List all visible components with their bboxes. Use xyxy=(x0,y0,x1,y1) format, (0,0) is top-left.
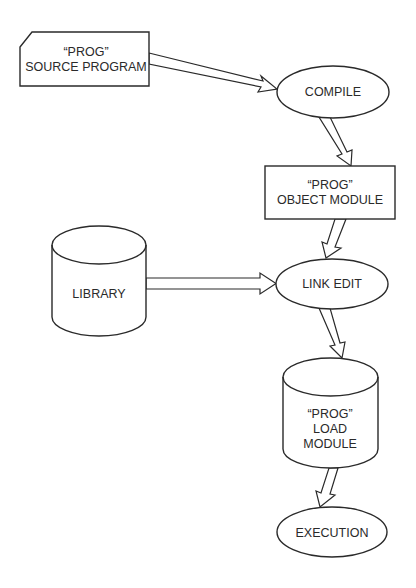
arrow-library-to-link xyxy=(146,273,276,294)
load-module-line1: “PROG” xyxy=(303,407,356,422)
flowchart-canvas: “PROG” SOURCE PROGRAM COMPILE “PROG” OBJ… xyxy=(0,0,416,588)
object-module-label: “PROG” OBJECT MODULE xyxy=(277,178,383,208)
arrow-load-to-execution xyxy=(316,468,338,507)
compile-text: COMPILE xyxy=(305,85,361,100)
link-edit-text: LINK EDIT xyxy=(302,277,362,292)
execution-label: EXECUTION xyxy=(296,526,369,541)
compile-label: COMPILE xyxy=(305,85,361,100)
source-program-line2: SOURCE PROGRAM xyxy=(25,60,147,75)
arrow-link-to-load xyxy=(319,308,345,358)
execution-text: EXECUTION xyxy=(296,526,369,541)
arrow-object-to-link xyxy=(322,219,346,258)
object-module-line1: “PROG” xyxy=(277,178,383,193)
source-program-line1: “PROG” xyxy=(25,45,147,60)
library-text: LIBRARY xyxy=(72,287,125,302)
link-edit-label: LINK EDIT xyxy=(302,277,362,292)
source-program-label: “PROG” SOURCE PROGRAM xyxy=(25,45,147,75)
object-module-line2: OBJECT MODULE xyxy=(277,193,383,208)
arrow-source-to-compile xyxy=(149,53,277,92)
load-module-line3: MODULE xyxy=(303,437,356,452)
arrow-compile-to-object xyxy=(319,117,352,166)
library-storage xyxy=(52,226,146,336)
load-module-line2: LOAD xyxy=(303,422,356,437)
library-label: LIBRARY xyxy=(72,287,125,302)
load-module-label: “PROG” LOAD MODULE xyxy=(303,407,356,452)
